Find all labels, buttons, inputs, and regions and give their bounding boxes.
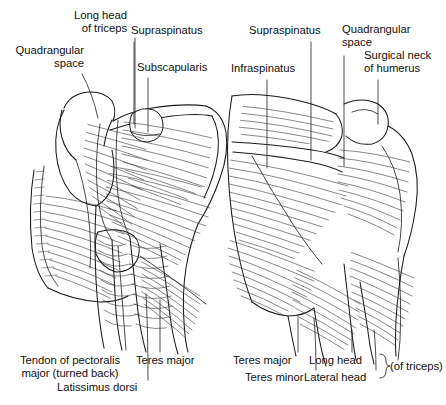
label-supraspinatus-right: Supraspinatus [249,24,349,37]
right-posterior-shoulder-drawing [228,94,418,366]
label-tendon-of-pectoralis-major: Tendon of pectoralis major (turned back) [16,354,124,379]
label-infraspinatus: Infraspinatus [231,62,321,75]
label-quadrangular-space-right: Quadrangular space [342,23,442,48]
leader-quadrangular-space-left [82,74,98,118]
label-long-head: Long head [309,354,381,367]
label-latissimus-dorsi: Latissimus dorsi [57,381,167,394]
label-of-triceps: (of triceps) [390,360,446,373]
label-supraspinatus-left: Supraspinatus [131,24,231,37]
label-lateral-head: Lateral head [304,371,384,384]
left-anterior-shoulder-drawing [30,92,226,354]
label-long-head-of-triceps: Long head of triceps [42,9,127,34]
label-subscapularis: Subscapularis [137,61,237,74]
label-teres-major-left: Teres major [136,354,216,367]
label-teres-major-right: Teres major [233,354,313,367]
label-quadrangular-space-left: Quadrangular space [0,44,84,69]
label-surgical-neck-of-humerus: Surgical neck of humerus [364,49,444,74]
